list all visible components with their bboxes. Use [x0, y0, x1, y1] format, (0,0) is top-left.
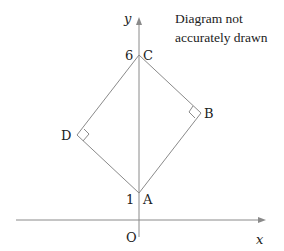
point-label-A: A — [142, 192, 153, 207]
y-axis-label: y — [123, 11, 132, 26]
coordinate-diagram: y x O 6 1 C A B D Diagram not accurately… — [0, 0, 284, 251]
edge-BC — [139, 55, 201, 113]
origin-label: O — [126, 230, 137, 245]
right-angle-marker-D — [83, 129, 89, 141]
x-axis-label: x — [256, 232, 264, 247]
note-line-2: accurately drawn — [175, 30, 268, 45]
y-tick-label-6: 6 — [125, 48, 133, 63]
y-axis-arrow-icon — [136, 17, 142, 25]
x-axis-arrow-icon — [258, 217, 266, 223]
edge-CD — [77, 55, 139, 135]
y-tick-label-1: 1 — [126, 192, 134, 207]
edge-AB — [139, 113, 201, 193]
note-line-1: Diagram not — [175, 11, 243, 26]
point-label-D: D — [61, 128, 71, 143]
right-angle-marker-B — [189, 106, 195, 118]
point-label-B: B — [204, 106, 214, 121]
edge-DA — [77, 135, 139, 193]
point-label-C: C — [143, 48, 153, 63]
